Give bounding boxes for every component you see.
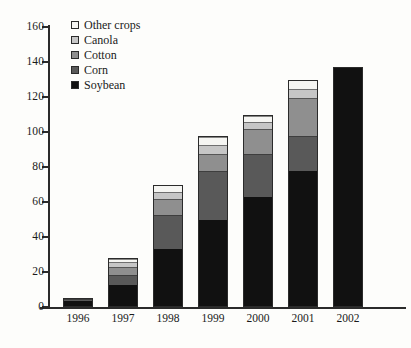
x-axis-label-2000: 2000 — [236, 312, 281, 324]
bar-segment-other-crops — [289, 80, 317, 89]
bar-segment-other-crops — [244, 116, 272, 123]
legend-swatch-icon — [71, 21, 79, 29]
legend-swatch-icon — [71, 51, 79, 59]
y-axis-tick-label: 100 — [26, 126, 44, 138]
bar-segment-canola — [199, 145, 227, 154]
x-axis-label-2002: 2002 — [326, 312, 371, 324]
y-axis-tick-label: 60 — [32, 196, 44, 208]
bar-segment-cotton — [289, 98, 317, 136]
bar-segment-soybean — [154, 249, 182, 306]
bar-1997 — [108, 258, 138, 307]
bar-segment-other-crops — [154, 185, 182, 192]
bar-segment-corn — [289, 136, 317, 171]
bar-segment-soybean — [334, 68, 362, 306]
x-axis-label-1996: 1996 — [56, 312, 101, 324]
x-axis-label-1997: 1997 — [101, 312, 146, 324]
legend-item-canola: Canola — [71, 33, 140, 47]
bar-segment-soybean — [109, 285, 137, 306]
bar-segment-canola — [154, 192, 182, 199]
legend-label: Other crops — [84, 19, 140, 31]
bar-segment-corn — [154, 215, 182, 249]
y-axis-tick-label: 0 — [38, 301, 44, 313]
bar-segment-cotton — [244, 129, 272, 153]
bar-segment-soybean — [199, 220, 227, 306]
bar-2000 — [243, 115, 273, 308]
y-axis-tick-label: 40 — [32, 231, 44, 243]
bar-segment-cotton — [199, 154, 227, 171]
bar-segment-soybean — [289, 171, 317, 306]
bar-1999 — [198, 136, 228, 308]
y-axis-tick-label: 120 — [26, 91, 44, 103]
x-axis-line — [40, 307, 406, 309]
chart-legend: Other cropsCanolaCottonCornSoybean — [71, 18, 140, 92]
legend-label: Soybean — [84, 79, 125, 91]
bar-1996 — [63, 298, 93, 307]
bar-1998 — [153, 185, 183, 308]
bar-segment-other-crops — [199, 137, 227, 146]
x-axis-label-1998: 1998 — [146, 312, 191, 324]
legend-swatch-icon — [71, 81, 79, 89]
bar-segment-corn — [199, 171, 227, 219]
bar-2002 — [333, 67, 363, 307]
bar-segment-corn — [109, 275, 137, 285]
bar-segment-soybean — [244, 197, 272, 306]
bar-segment-cotton — [154, 199, 182, 215]
legend-swatch-icon — [71, 66, 79, 74]
x-axis-label-1999: 1999 — [191, 312, 236, 324]
legend-item-other-crops: Other crops — [71, 18, 140, 32]
y-axis-tick-label: 20 — [32, 266, 44, 278]
legend-label: Cotton — [84, 49, 117, 61]
legend-swatch-icon — [71, 36, 79, 44]
bar-segment-canola — [244, 122, 272, 129]
y-axis-tick-label: 80 — [32, 161, 44, 173]
chart-container: 020406080100120140160 199619971998199920… — [0, 0, 411, 348]
y-axis-tick-label: 140 — [26, 56, 44, 68]
x-axis-label-2001: 2001 — [281, 312, 326, 324]
legend-item-corn: Corn — [71, 63, 140, 77]
bar-segment-soybean — [64, 301, 92, 306]
bar-segment-cotton — [109, 267, 137, 275]
legend-item-cotton: Cotton — [71, 48, 140, 62]
bar-2001 — [288, 80, 318, 308]
legend-label: Corn — [84, 64, 108, 76]
bar-segment-corn — [244, 154, 272, 197]
legend-item-soybean: Soybean — [71, 78, 140, 92]
legend-label: Canola — [84, 34, 118, 46]
y-axis-tick-label: 160 — [26, 21, 44, 33]
bar-segment-canola — [289, 89, 317, 98]
